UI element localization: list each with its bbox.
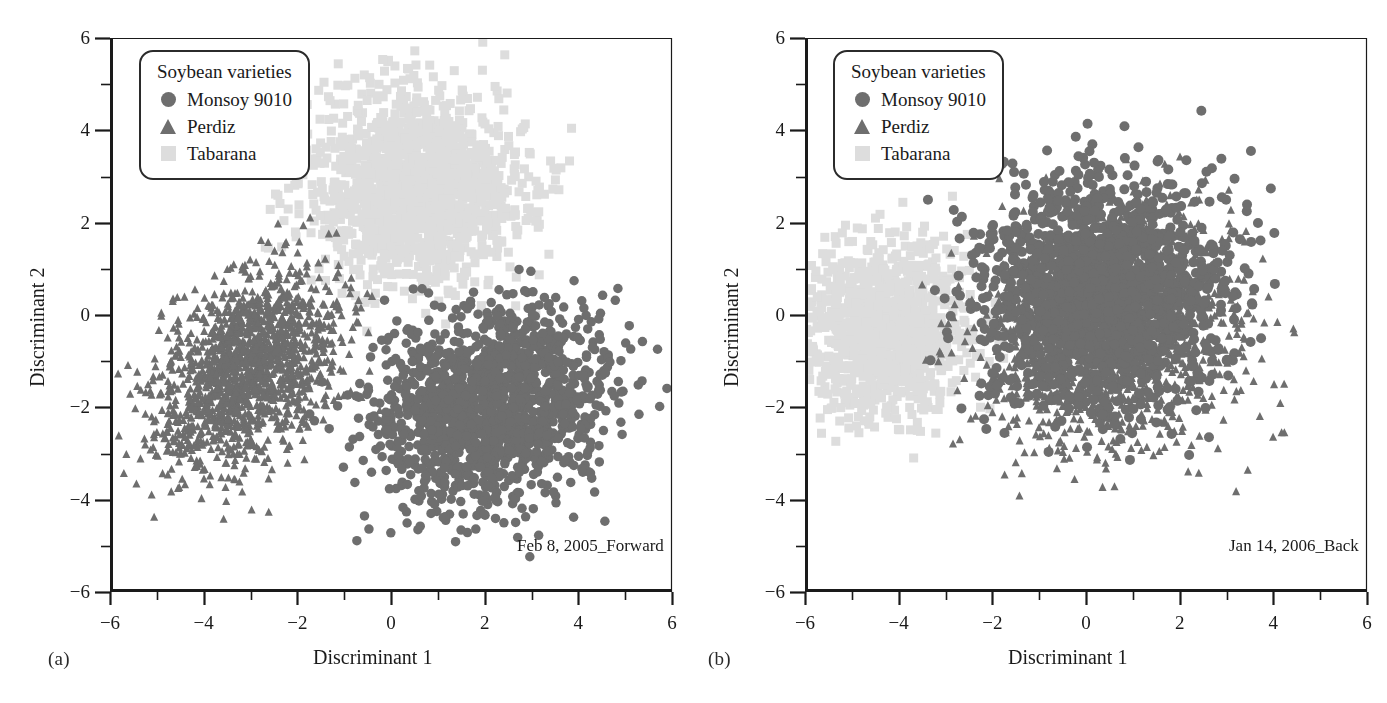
x-tick-label: 4 xyxy=(574,612,584,634)
x-tick-label: −6 xyxy=(795,612,815,634)
y-tick-label: 0 xyxy=(52,304,90,326)
x-tick-label: −6 xyxy=(100,612,120,634)
y-tick-label: 4 xyxy=(747,119,785,141)
legend-b: Soybean varieties Monsoy 9010 Perdiz Tab… xyxy=(833,50,1004,180)
legend-title: Soybean varieties xyxy=(851,61,986,83)
y-tick-label: −2 xyxy=(52,396,90,418)
x-axis-title: Discriminant 1 xyxy=(1008,646,1127,669)
x-tick-label: −2 xyxy=(982,612,1002,634)
y-axis-title: Discriminant 2 xyxy=(720,268,743,387)
square-marker-icon xyxy=(155,146,181,161)
y-tick-label: −4 xyxy=(52,489,90,511)
square-marker-icon xyxy=(849,146,875,161)
y-tick-label: 2 xyxy=(52,212,90,234)
legend-item-tabarana: Tabarana xyxy=(155,140,292,167)
legend-item-perdiz: Perdiz xyxy=(849,113,986,140)
x-tick-label: −4 xyxy=(889,612,909,634)
legend-item-monsoy-9010: Monsoy 9010 xyxy=(155,86,292,113)
x-tick-label: −4 xyxy=(194,612,214,634)
panel-annotation-b: Jan 14, 2006_Back xyxy=(1229,536,1359,556)
y-tick-label: 2 xyxy=(747,212,785,234)
y-axis-title: Discriminant 2 xyxy=(26,268,49,387)
x-tick-label: 2 xyxy=(480,612,490,634)
legend-item-label: Perdiz xyxy=(187,116,236,138)
panel-b: Soybean varieties Monsoy 9010 Perdiz Tab… xyxy=(694,0,1387,703)
legend-a: Soybean varieties Monsoy 9010 Perdiz Tab… xyxy=(139,50,310,180)
y-tick-label: −2 xyxy=(747,396,785,418)
legend-item-label: Perdiz xyxy=(881,116,930,138)
scatter-plot-a xyxy=(0,0,693,703)
panel-letter-a: (a) xyxy=(48,648,70,670)
panel-letter-b: (b) xyxy=(708,648,731,670)
y-tick-label: 0 xyxy=(747,304,785,326)
x-tick-label: −2 xyxy=(287,612,307,634)
panel-a: Soybean varieties Monsoy 9010 Perdiz Tab… xyxy=(0,0,693,703)
y-tick-label: −6 xyxy=(52,581,90,603)
legend-item-label: Tabarana xyxy=(881,143,950,165)
circle-marker-icon xyxy=(849,92,875,107)
legend-item-label: Monsoy 9010 xyxy=(881,89,986,111)
x-tick-label: 6 xyxy=(667,612,677,634)
panel-annotation-a: Feb 8, 2005_Forward xyxy=(517,536,664,556)
y-tick-label: −6 xyxy=(747,581,785,603)
figure-two-panel-scatter: Soybean varieties Monsoy 9010 Perdiz Tab… xyxy=(0,0,1387,703)
legend-item-tabarana: Tabarana xyxy=(849,140,986,167)
legend-item-label: Monsoy 9010 xyxy=(187,89,292,111)
x-tick-label: 6 xyxy=(1362,612,1372,634)
x-tick-label: 0 xyxy=(386,612,396,634)
triangle-marker-icon xyxy=(155,119,181,134)
triangle-marker-icon xyxy=(849,119,875,134)
circle-marker-icon xyxy=(155,92,181,107)
y-tick-label: 6 xyxy=(52,27,90,49)
legend-item-label: Tabarana xyxy=(187,143,256,165)
legend-title: Soybean varieties xyxy=(157,61,292,83)
x-tick-label: 2 xyxy=(1175,612,1185,634)
x-axis-title: Discriminant 1 xyxy=(313,646,432,669)
legend-item-perdiz: Perdiz xyxy=(155,113,292,140)
scatter-plot-b xyxy=(694,0,1387,703)
legend-item-monsoy-9010: Monsoy 9010 xyxy=(849,86,986,113)
x-tick-label: 0 xyxy=(1081,612,1091,634)
x-tick-label: 4 xyxy=(1269,612,1279,634)
y-tick-label: 6 xyxy=(747,27,785,49)
y-tick-label: 4 xyxy=(52,119,90,141)
y-tick-label: −4 xyxy=(747,489,785,511)
